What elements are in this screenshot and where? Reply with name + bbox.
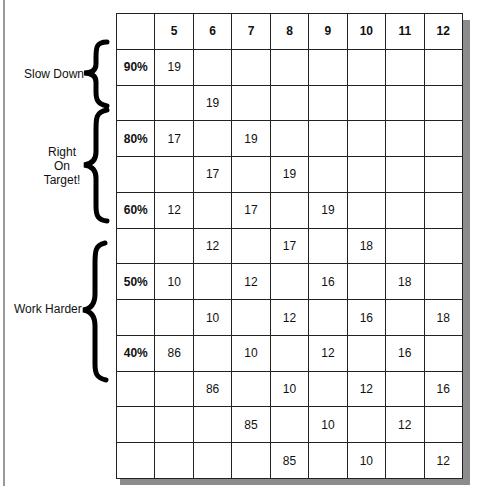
value-cell: 19 xyxy=(309,192,347,228)
value-cell xyxy=(155,443,193,479)
value-cell xyxy=(347,335,385,371)
value-cell xyxy=(155,371,193,407)
header-cell: 10 xyxy=(347,14,385,50)
header-row: 5 6 7 8 9 10 11 12 xyxy=(117,14,463,50)
table-row: 851012 xyxy=(117,443,463,479)
percent-cell xyxy=(117,407,155,443)
table-row: 86101216 xyxy=(117,371,463,407)
value-cell xyxy=(193,335,231,371)
value-cell xyxy=(270,121,308,157)
value-cell: 16 xyxy=(424,371,463,407)
value-cell xyxy=(309,443,347,479)
value-cell xyxy=(193,121,231,157)
percent-cell: 40% xyxy=(117,335,155,371)
value-cell xyxy=(270,85,308,121)
value-cell: 16 xyxy=(347,300,385,336)
percent-cell xyxy=(117,85,155,121)
percent-cell xyxy=(117,228,155,264)
table-row: 50%10121618 xyxy=(117,264,463,300)
value-cell xyxy=(232,85,270,121)
value-cell: 10 xyxy=(270,371,308,407)
table-row: 1719 xyxy=(117,157,463,193)
value-cell: 12 xyxy=(424,443,463,479)
value-cell xyxy=(424,228,463,264)
value-cell: 10 xyxy=(347,443,385,479)
percent-cell xyxy=(117,371,155,407)
value-cell xyxy=(155,228,193,264)
value-cell xyxy=(193,443,231,479)
value-cell: 12 xyxy=(232,264,270,300)
bracket-on-target-icon xyxy=(84,110,107,221)
percent-cell xyxy=(117,443,155,479)
header-cell: 5 xyxy=(155,14,193,50)
value-cell: 12 xyxy=(193,228,231,264)
value-cell xyxy=(309,157,347,193)
curly-brackets xyxy=(0,0,120,486)
header-cell: 8 xyxy=(270,14,308,50)
percent-cell: 60% xyxy=(117,192,155,228)
value-cell: 17 xyxy=(193,157,231,193)
value-cell xyxy=(386,157,424,193)
value-cell xyxy=(270,192,308,228)
value-cell xyxy=(309,49,347,85)
header-cell: 12 xyxy=(424,14,463,50)
value-cell xyxy=(270,407,308,443)
percent-cell xyxy=(117,157,155,193)
value-cell xyxy=(424,49,463,85)
value-cell: 18 xyxy=(424,300,463,336)
value-cell xyxy=(347,192,385,228)
value-cell: 18 xyxy=(347,228,385,264)
table-row: 851012 xyxy=(117,407,463,443)
value-cell xyxy=(309,85,347,121)
value-cell xyxy=(155,85,193,121)
value-cell xyxy=(386,371,424,407)
value-cell xyxy=(386,228,424,264)
table-row: 19 xyxy=(117,85,463,121)
value-cell xyxy=(232,300,270,336)
value-cell xyxy=(232,228,270,264)
value-cell xyxy=(347,121,385,157)
percent-cell: 90% xyxy=(117,49,155,85)
value-cell xyxy=(386,121,424,157)
value-cell: 10 xyxy=(309,407,347,443)
header-cell xyxy=(117,14,155,50)
value-cell xyxy=(424,85,463,121)
value-cell: 17 xyxy=(232,192,270,228)
value-cell: 16 xyxy=(309,264,347,300)
value-cell: 10 xyxy=(155,264,193,300)
value-cell: 12 xyxy=(270,300,308,336)
value-cell: 86 xyxy=(193,371,231,407)
value-cell: 17 xyxy=(155,121,193,157)
value-cell xyxy=(309,228,347,264)
bracket-work-harder-icon xyxy=(83,243,106,380)
value-cell xyxy=(386,49,424,85)
value-cell xyxy=(424,192,463,228)
value-cell xyxy=(424,407,463,443)
value-cell xyxy=(155,407,193,443)
value-cell xyxy=(347,85,385,121)
value-cell: 16 xyxy=(386,335,424,371)
pace-chart-table: 5 6 7 8 9 10 11 12 90%191980%1719171960%… xyxy=(116,13,463,479)
value-cell xyxy=(270,335,308,371)
percent-cell xyxy=(117,300,155,336)
value-cell xyxy=(347,157,385,193)
value-cell xyxy=(424,157,463,193)
header-cell: 9 xyxy=(309,14,347,50)
value-cell xyxy=(386,85,424,121)
value-cell: 12 xyxy=(309,335,347,371)
value-cell xyxy=(386,443,424,479)
table-row: 90%19 xyxy=(117,49,463,85)
value-cell xyxy=(232,49,270,85)
value-cell xyxy=(309,371,347,407)
value-cell xyxy=(309,121,347,157)
value-cell: 86 xyxy=(155,335,193,371)
value-cell xyxy=(270,264,308,300)
value-cell: 10 xyxy=(232,335,270,371)
value-cell xyxy=(309,300,347,336)
value-cell xyxy=(232,157,270,193)
value-cell xyxy=(424,335,463,371)
value-cell xyxy=(155,300,193,336)
value-cell: 12 xyxy=(386,407,424,443)
value-cell xyxy=(386,300,424,336)
table-row: 60%121719 xyxy=(117,192,463,228)
